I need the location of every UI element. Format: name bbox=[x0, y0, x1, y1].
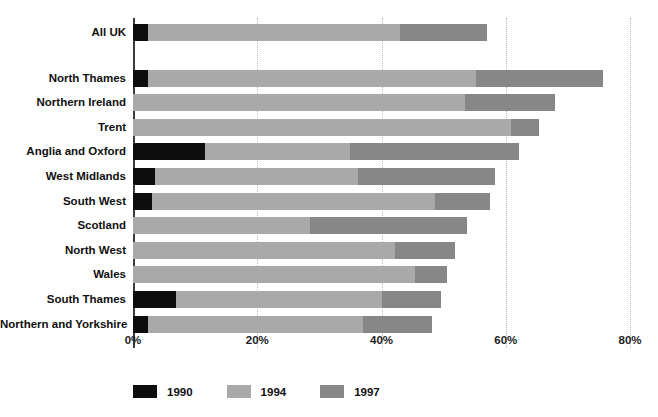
bar-segment-1997 bbox=[363, 316, 432, 333]
bar-segment-1994 bbox=[133, 266, 415, 283]
category-axis-labels: All UKNorth ThamesNorthern IrelandTrentA… bbox=[0, 18, 126, 348]
bar-segment-1990 bbox=[133, 316, 148, 333]
bar-segment-1997 bbox=[400, 24, 487, 41]
bar-segment-1997 bbox=[511, 119, 539, 136]
x-tick-label: 80% bbox=[618, 334, 641, 346]
legend-label: 1990 bbox=[167, 386, 193, 398]
x-tick-label: 0% bbox=[125, 334, 142, 346]
bar-segment-1990 bbox=[133, 70, 148, 87]
legend-item[interactable]: 1997 bbox=[320, 385, 380, 398]
legend-item[interactable]: 1994 bbox=[227, 385, 287, 398]
legend-swatch-icon bbox=[227, 385, 251, 398]
category-label: All UK bbox=[0, 24, 126, 41]
bar-segment-1990 bbox=[133, 291, 176, 308]
category-label: Wales bbox=[0, 266, 126, 283]
bar-segment-1994 bbox=[133, 94, 465, 111]
bar-segment-1997 bbox=[358, 168, 495, 185]
bar-segment-1997 bbox=[415, 266, 447, 283]
bar-segment-1994 bbox=[155, 168, 358, 185]
category-label: South West bbox=[0, 193, 126, 210]
bar-segment-1997 bbox=[465, 94, 555, 111]
category-label: North Thames bbox=[0, 70, 126, 87]
legend-swatch-icon bbox=[133, 385, 157, 398]
x-tick-label: 60% bbox=[494, 334, 517, 346]
bar-segment-1997 bbox=[350, 143, 520, 160]
category-label: Northern and Yorkshire bbox=[0, 316, 126, 333]
category-label: Anglia and Oxford bbox=[0, 143, 126, 160]
bar-segment-1994 bbox=[148, 70, 476, 87]
category-label: Northern Ireland bbox=[0, 94, 126, 111]
bar-segment-1994 bbox=[148, 24, 400, 41]
bar-segment-1994 bbox=[152, 193, 435, 210]
bar-segment-1990 bbox=[133, 193, 152, 210]
bar-segment-1997 bbox=[395, 242, 455, 259]
bar-segment-1997 bbox=[476, 70, 603, 87]
bar-segment-1997 bbox=[382, 291, 441, 308]
chart-legend: 199019941997 bbox=[133, 385, 414, 398]
plot-area bbox=[133, 18, 630, 348]
bar-segment-1990 bbox=[133, 168, 155, 185]
category-label: North West bbox=[0, 242, 126, 259]
bar-segment-1997 bbox=[310, 217, 467, 234]
bar-segment-1994 bbox=[148, 316, 363, 333]
category-label: Scotland bbox=[0, 217, 126, 234]
bar-segment-1990 bbox=[133, 24, 148, 41]
gridline-80 bbox=[630, 18, 632, 348]
x-tick-label: 40% bbox=[370, 334, 393, 346]
x-tick-label: 20% bbox=[246, 334, 269, 346]
gridline-60 bbox=[506, 18, 508, 348]
bar-segment-1990 bbox=[133, 143, 205, 160]
legend-label: 1994 bbox=[261, 386, 287, 398]
category-label: Trent bbox=[0, 119, 126, 136]
bar-segment-1994 bbox=[205, 143, 350, 160]
legend-swatch-icon bbox=[320, 385, 344, 398]
bar-segment-1994 bbox=[133, 119, 511, 136]
category-label: West Midlands bbox=[0, 168, 126, 185]
bar-segment-1994 bbox=[133, 217, 310, 234]
category-label: South Thames bbox=[0, 291, 126, 308]
stacked-bar-chart: All UKNorth ThamesNorthern IrelandTrentA… bbox=[0, 0, 658, 417]
legend-item[interactable]: 1990 bbox=[133, 385, 193, 398]
bar-segment-1994 bbox=[176, 291, 382, 308]
legend-label: 1997 bbox=[354, 386, 380, 398]
bar-segment-1997 bbox=[435, 193, 490, 210]
bar-segment-1994 bbox=[133, 242, 395, 259]
